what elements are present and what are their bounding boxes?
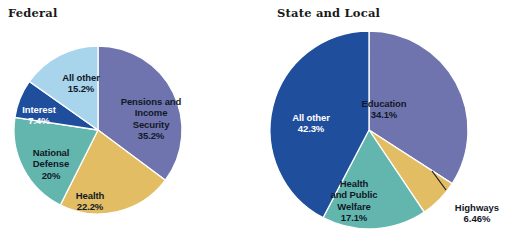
pie-label-highways: Highways 6.46% [441,190,513,225]
pie-label-health-and-public-welfare: Health and Public Welfare 17.1% [315,166,393,235]
pie-label-all-other: All other 15.2% [44,60,118,106]
pie-label-pensions-and-income-security-value: 35.2% [112,130,190,142]
pie-label-all-other-text: All other [62,72,100,83]
pie-label-education-text: Education [361,98,406,109]
chart-panel-state-and-local: State and Local Education 34.1% Highways… [257,0,514,246]
pie-label-health-and-public-welfare-text: Health and Public Welfare [330,178,377,212]
pie-label-national-defense-text: National Defense [33,147,70,170]
pie-label-national-defense: National Defense 20% [16,135,86,193]
pie-label-all-other-value: 15.2% [44,83,118,95]
pie-label-pensions-and-income-security: Pensions and Income Security 35.2% [112,84,190,153]
pie-label-health-value: 22.2% [60,201,120,213]
pie-label-highways-text: Highways [455,202,499,213]
pie-label-highways-value: 6.46% [464,213,491,224]
pie-label-all-other-value: 42.3% [273,123,349,135]
pie-label-education: Education 34.1% [341,86,427,132]
chart-panel-federal: Federal Pensions and Income Security 35.… [0,0,257,246]
pie-label-health-and-public-welfare-value: 17.1% [315,212,393,224]
pie-label-interest-value: 7.4% [6,115,72,127]
pie-label-all-other: All other 42.3% [273,100,349,146]
pie-label-pensions-and-income-security-text: Pensions and Income Security [121,96,182,130]
pie-label-national-defense-value: 20% [16,170,86,182]
pie-label-all-other-text: All other [292,112,330,123]
pie-label-education-value: 34.1% [341,109,427,121]
